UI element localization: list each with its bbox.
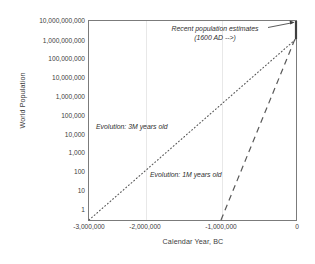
annotation-evolution-1m: Evolution: 1M years old [150,170,222,179]
annotation-arrowhead-icon [290,21,295,25]
annotation-recent-estimates: Recent population estimates (1600 AD -->… [163,24,267,43]
annotation-evolution-3m: Evolution: 3M years old [96,122,168,131]
x-tick-label: -1,000,000 [181,224,261,231]
annotation-recent-line2: (1600 AD -->) [163,33,267,42]
world-population-chart: World Population 10,000,000,000 1,000,00… [0,0,315,264]
x-tick-label: -2,000,000 [105,224,185,231]
annotation-leader-line [268,23,294,28]
x-tick-label: 0 [257,224,315,231]
x-axis-title: Calendar Year, BC [88,237,298,246]
annotation-recent-line1: Recent population estimates [163,24,267,33]
series-line-evolution-1m [221,39,295,220]
